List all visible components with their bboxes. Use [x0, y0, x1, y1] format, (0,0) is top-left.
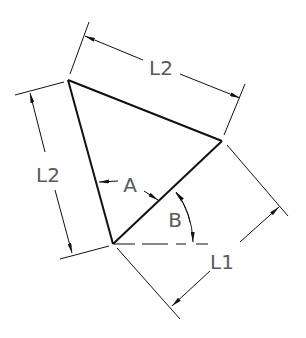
triangle-edge-top — [68, 80, 222, 141]
label-l1: L1 — [210, 252, 234, 272]
label-top-l2: L2 — [149, 58, 173, 78]
label-angle-a: A — [123, 175, 137, 195]
triangle — [68, 80, 222, 244]
triangle-edge-left — [68, 80, 113, 244]
label-left-l2: L2 — [36, 165, 60, 185]
label-angle-b: B — [168, 210, 182, 230]
